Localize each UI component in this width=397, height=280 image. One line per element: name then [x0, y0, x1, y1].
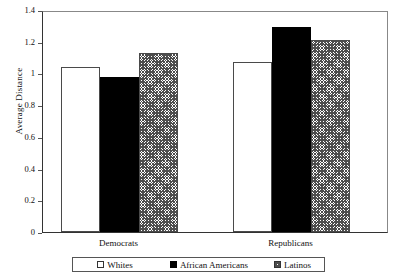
y-axis-tick-label: 0.4	[24, 164, 35, 174]
plot-area	[42, 11, 388, 233]
bar-series-container	[43, 12, 387, 232]
legend-label: Latinos	[284, 260, 311, 270]
y-axis-tick-label: 1.2	[24, 37, 35, 47]
y-axis-tick-label: 0.6	[24, 132, 35, 142]
y-axis-tick-label: 1.4	[24, 5, 35, 15]
legend-item: Whites	[73, 260, 157, 270]
bar	[100, 77, 139, 232]
open-square-icon	[97, 261, 104, 268]
bar	[61, 67, 100, 232]
y-axis-ticks: 00.20.40.60.811.21.4	[0, 11, 42, 233]
y-axis-tick-mark	[38, 233, 42, 234]
y-axis-tick-label: 0.8	[24, 100, 35, 110]
legend-item: African Americans	[157, 260, 261, 270]
bar	[233, 62, 272, 232]
x-axis-category-label: Republicans	[212, 238, 369, 248]
hatched-square-icon	[274, 261, 281, 268]
bar	[139, 53, 178, 232]
bar	[272, 27, 311, 232]
filled-square-icon	[170, 261, 177, 268]
bar-chart: Average Distance 00.20.40.60.811.21.4 De…	[0, 0, 397, 280]
x-axis-category-label: Democrats	[40, 238, 197, 248]
legend-label: Whites	[107, 260, 133, 270]
legend-item: Latinos	[261, 260, 324, 270]
chart-legend: WhitesAfrican AmericansLatinos	[72, 257, 325, 272]
legend-label: African Americans	[180, 260, 248, 270]
y-axis-tick-label: 0	[31, 227, 35, 237]
bar	[311, 40, 350, 232]
y-axis-tick-label: 1	[31, 68, 35, 78]
y-axis-tick-label: 0.2	[24, 195, 35, 205]
